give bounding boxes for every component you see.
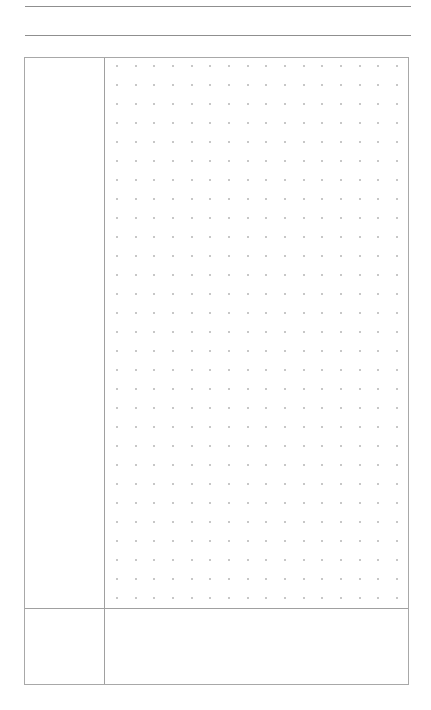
grid-dot	[135, 274, 137, 276]
grid-dot	[172, 426, 174, 428]
grid-dot	[340, 255, 342, 257]
grid-dot	[172, 369, 174, 371]
grid-dot	[303, 65, 305, 67]
grid-dot	[172, 65, 174, 67]
grid-dot	[191, 559, 193, 561]
grid-dot	[340, 179, 342, 181]
grid-dot	[377, 141, 379, 143]
grid-dot	[116, 122, 118, 124]
grid-dot	[359, 84, 361, 86]
grid-dot	[247, 331, 249, 333]
grid-dot	[396, 236, 398, 238]
header-line-1	[25, 6, 411, 7]
grid-dot	[228, 578, 230, 580]
grid-dot	[303, 350, 305, 352]
grid-dot	[303, 217, 305, 219]
grid-dot	[396, 350, 398, 352]
grid-dot	[228, 407, 230, 409]
grid-dot	[172, 521, 174, 523]
grid-dot	[153, 103, 155, 105]
grid-dot	[377, 160, 379, 162]
grid-dot	[303, 255, 305, 257]
grid-dot	[135, 559, 137, 561]
grid-dot	[172, 198, 174, 200]
grid-dot	[284, 236, 286, 238]
grid-dot	[321, 559, 323, 561]
grid-dot	[359, 445, 361, 447]
header-line-2	[25, 35, 411, 36]
grid-dot	[116, 274, 118, 276]
grid-dot	[321, 502, 323, 504]
grid-dot	[340, 407, 342, 409]
grid-dot	[172, 179, 174, 181]
grid-dot	[359, 312, 361, 314]
cue-column[interactable]	[25, 58, 104, 608]
grid-dot	[303, 312, 305, 314]
grid-dot	[153, 179, 155, 181]
grid-dot	[303, 502, 305, 504]
grid-dot	[116, 483, 118, 485]
grid-dot	[265, 274, 267, 276]
grid-dot	[265, 407, 267, 409]
grid-dot	[303, 407, 305, 409]
grid-dot	[172, 312, 174, 314]
grid-dot	[172, 122, 174, 124]
grid-dot	[228, 103, 230, 105]
grid-dot	[265, 597, 267, 599]
grid-dot	[228, 597, 230, 599]
grid-dot	[396, 103, 398, 105]
grid-dot	[265, 445, 267, 447]
grid-dot	[321, 274, 323, 276]
grid-dot	[340, 502, 342, 504]
grid-dot	[377, 274, 379, 276]
grid-dot	[377, 293, 379, 295]
grid-dot	[359, 407, 361, 409]
grid-dot	[359, 141, 361, 143]
grid-dot	[153, 65, 155, 67]
grid-dot	[209, 274, 211, 276]
grid-dot	[303, 179, 305, 181]
grid-dot	[247, 540, 249, 542]
grid-dot	[396, 217, 398, 219]
grid-dot	[209, 597, 211, 599]
grid-dot	[321, 388, 323, 390]
grid-dot	[284, 198, 286, 200]
grid-dot	[135, 293, 137, 295]
grid-dot	[396, 483, 398, 485]
grid-dot	[191, 179, 193, 181]
grid-dot	[340, 160, 342, 162]
summary-area[interactable]	[25, 609, 408, 684]
grid-dot	[247, 141, 249, 143]
grid-dot	[116, 350, 118, 352]
grid-dot	[377, 483, 379, 485]
grid-dot	[247, 407, 249, 409]
grid-dot	[265, 122, 267, 124]
grid-dot	[116, 160, 118, 162]
grid-dot	[116, 559, 118, 561]
grid-dot	[265, 236, 267, 238]
grid-dot	[377, 122, 379, 124]
grid-dot	[340, 236, 342, 238]
grid-dot	[172, 464, 174, 466]
grid-dot	[340, 331, 342, 333]
grid-dot	[116, 84, 118, 86]
grid-dot	[284, 388, 286, 390]
grid-dot	[340, 559, 342, 561]
grid-dot	[191, 312, 193, 314]
grid-dot	[303, 388, 305, 390]
grid-dot	[209, 84, 211, 86]
grid-dot	[303, 141, 305, 143]
grid-dot	[228, 540, 230, 542]
grid-dot	[284, 445, 286, 447]
grid-dot	[247, 255, 249, 257]
grid-dot	[209, 426, 211, 428]
grid-dot	[359, 388, 361, 390]
grid-dot	[247, 578, 249, 580]
grid-dot	[247, 122, 249, 124]
grid-dot	[153, 331, 155, 333]
grid-dot	[359, 160, 361, 162]
grid-dot	[321, 483, 323, 485]
grid-dot	[116, 65, 118, 67]
notes-area[interactable]	[105, 58, 408, 608]
grid-dot	[191, 160, 193, 162]
